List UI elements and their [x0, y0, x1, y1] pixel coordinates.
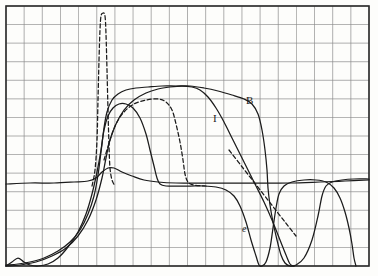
curve-label-i: I [213, 113, 217, 124]
chart-plot [0, 0, 378, 276]
grid-lines [6, 6, 369, 266]
curve-label-b: B [246, 95, 253, 106]
curve-label-e: e [242, 224, 246, 234]
figure-canvas: B I e [0, 0, 378, 276]
curve-dashed-diagonal-right [229, 150, 296, 236]
curve-e [6, 103, 356, 266]
